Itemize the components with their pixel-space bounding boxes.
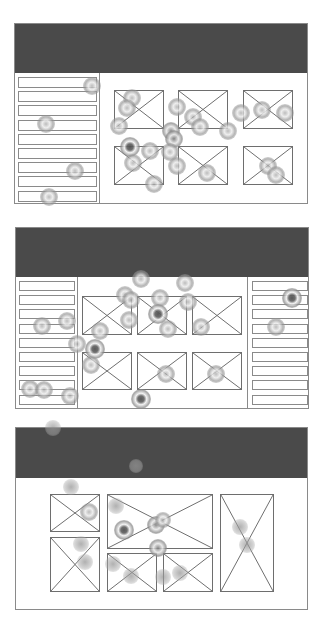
sidebar-row [19, 281, 75, 291]
image-placeholder [114, 146, 164, 185]
heatmap-comparison-diagram [0, 0, 326, 621]
image-placeholder [178, 146, 228, 185]
sidebar-left [16, 277, 78, 408]
sidebar-row [252, 366, 308, 376]
sidebar-row [19, 324, 75, 334]
sidebar-row [252, 395, 308, 405]
sidebar-row [19, 380, 75, 390]
placeholder-cross-icon [221, 495, 273, 591]
image-placeholder [137, 296, 187, 335]
placeholder-cross-icon [83, 297, 131, 334]
placeholder-cross-icon [138, 297, 186, 334]
placeholder-cross-icon [115, 91, 163, 128]
sidebar-row [18, 91, 97, 102]
placeholder-cross-icon [108, 554, 156, 591]
sidebar-row [252, 380, 308, 390]
sidebar-row [18, 191, 97, 202]
sidebar-row [252, 338, 308, 348]
placeholder-cross-icon [244, 91, 292, 128]
sidebar-row [18, 176, 97, 187]
sidebar-row [18, 120, 97, 131]
placeholder-cross-icon [193, 297, 241, 334]
sidebar-row [19, 295, 75, 305]
header-bar [16, 228, 308, 277]
image-placeholder [220, 494, 274, 592]
header-bar [16, 428, 307, 478]
image-placeholder [192, 296, 242, 335]
sidebar-left [15, 73, 100, 203]
image-placeholder [50, 537, 100, 592]
placeholder-cross-icon [179, 91, 227, 128]
image-placeholder [82, 296, 132, 335]
placeholder-cross-icon [244, 147, 292, 184]
placeholder-cross-icon [51, 538, 99, 591]
image-placeholder [243, 146, 293, 185]
image-placeholder [82, 352, 132, 390]
placeholder-cross-icon [138, 353, 186, 389]
image-placeholder [114, 90, 164, 129]
sidebar-row [19, 309, 75, 319]
sidebar-row [252, 352, 308, 362]
placeholder-cross-icon [164, 554, 212, 591]
image-placeholder [137, 352, 187, 390]
sidebar-row [252, 309, 308, 319]
sidebar-row [19, 366, 75, 376]
sidebar-row [252, 324, 308, 334]
sidebar-row [19, 338, 75, 348]
image-placeholder [192, 352, 242, 390]
sidebar-row [18, 77, 97, 88]
sidebar-right [247, 277, 310, 408]
sidebar-row [18, 148, 97, 159]
image-placeholder [178, 90, 228, 129]
image-placeholder [107, 494, 213, 549]
placeholder-cross-icon [51, 495, 99, 531]
sidebar-row [19, 395, 75, 405]
wireframe-panel-2 [15, 227, 309, 409]
placeholder-cross-icon [83, 353, 131, 389]
image-placeholder [107, 553, 157, 592]
sidebar-row [19, 352, 75, 362]
image-placeholder [50, 494, 100, 532]
sidebar-row [18, 134, 97, 145]
placeholder-cross-icon [115, 147, 163, 184]
image-placeholder [163, 553, 213, 592]
image-placeholder [243, 90, 293, 129]
wireframe-panel-3 [15, 427, 308, 610]
placeholder-cross-icon [179, 147, 227, 184]
placeholder-cross-icon [193, 353, 241, 389]
sidebar-row [252, 281, 308, 291]
placeholder-cross-icon [108, 495, 212, 548]
sidebar-row [18, 162, 97, 173]
wireframe-panel-1 [14, 23, 308, 204]
sidebar-row [18, 105, 97, 116]
header-bar [15, 24, 307, 73]
sidebar-row [252, 295, 308, 305]
